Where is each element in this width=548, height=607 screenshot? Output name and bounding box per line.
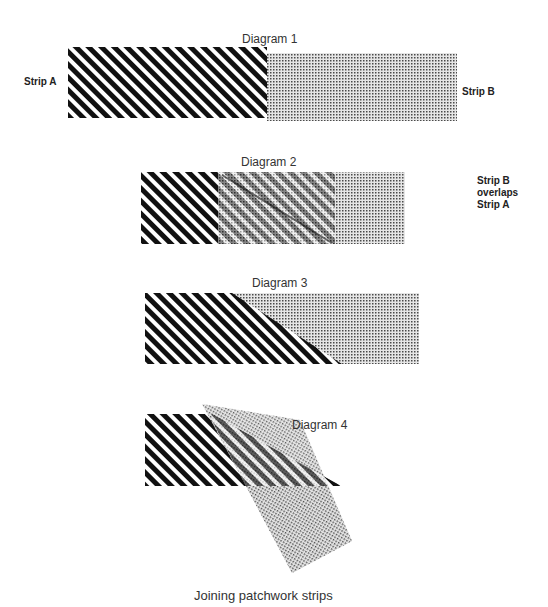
diagram-1-title: Diagram 1	[242, 32, 297, 46]
overlap-note-line-2: overlaps	[477, 187, 518, 199]
strip-b-label: Strip B	[462, 86, 495, 98]
strip-b-lower	[246, 486, 352, 573]
diagram-3	[145, 293, 419, 364]
overlap-note-line-3: Strip A	[477, 199, 509, 211]
strip-a	[68, 47, 267, 118]
diagram-2	[141, 172, 405, 244]
diagram-4-title: Diagram 4	[292, 418, 347, 432]
figure-caption: Joining patchwork strips	[194, 588, 333, 603]
diagram-1	[68, 47, 457, 121]
overlap-note-line-1: Strip B	[477, 175, 510, 187]
diagram-3-title: Diagram 3	[252, 276, 307, 290]
strip-b-overlap	[335, 172, 405, 244]
strip-a-label: Strip A	[24, 76, 56, 88]
strip-b	[267, 53, 457, 121]
diagram-2-title: Diagram 2	[241, 155, 296, 169]
